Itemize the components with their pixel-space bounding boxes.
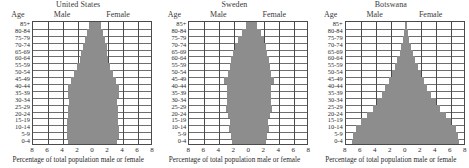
x-tick-label: 2 — [232, 146, 236, 155]
bar-female — [249, 50, 267, 57]
pyramid-panel-sweden: SwedenAgeMaleFemale85+80-8475-7970-7465-… — [156, 0, 312, 168]
bar-female — [93, 132, 119, 139]
heading-female: Female — [401, 9, 461, 20]
bar-female — [249, 36, 263, 43]
bar-female — [249, 112, 269, 119]
bar-female — [249, 56, 269, 63]
bar-female — [406, 132, 459, 139]
bar-female — [249, 77, 274, 84]
column-headings: AgeMaleFemale — [0, 9, 156, 20]
bar-male — [230, 118, 250, 125]
bar-male — [397, 56, 405, 63]
bar-female — [406, 112, 447, 119]
bar-female — [93, 29, 103, 36]
bar-female — [93, 91, 119, 98]
bar-female — [93, 77, 116, 84]
pyramid-plot — [188, 21, 308, 145]
bar-female — [249, 132, 266, 139]
panel-title: Sweden — [156, 0, 312, 9]
bar-female — [406, 105, 441, 112]
bar-male — [392, 70, 406, 77]
gridline-vertical — [123, 22, 124, 144]
bar-male — [68, 112, 94, 119]
bar-female — [93, 105, 118, 112]
bar-male — [238, 36, 249, 43]
panel-title: Botswana — [313, 0, 469, 9]
bar-female — [249, 22, 257, 29]
bar-male — [81, 50, 93, 57]
bar-female — [93, 125, 119, 132]
gridline-vertical — [48, 22, 49, 144]
heading-male: Male — [347, 9, 403, 20]
bar-female — [249, 70, 271, 77]
bar-male — [68, 91, 93, 98]
gridline-vertical — [63, 22, 64, 144]
gridline-vertical — [138, 22, 139, 144]
heading-male: Male — [34, 9, 90, 20]
bar-female — [249, 63, 269, 70]
bar-male — [67, 118, 93, 125]
bar-female — [406, 98, 436, 105]
x-tick-label: 2 — [262, 146, 266, 155]
bar-female — [249, 98, 271, 105]
bar-male — [67, 132, 93, 139]
bar-female — [93, 63, 110, 70]
bar-female — [93, 118, 118, 125]
age-axis-labels: 85+80-8475-7970-7465-6960-6455-5950-5445… — [156, 21, 187, 145]
bar-male — [361, 118, 406, 125]
x-axis-caption: Percentage of total population male or f… — [313, 155, 469, 165]
x-tick-label: 8 — [343, 146, 347, 155]
bar-male — [227, 91, 250, 98]
plot-area: 85+80-8475-7970-7465-6960-6455-5950-5445… — [156, 21, 312, 168]
bar-female — [406, 22, 408, 29]
bar-female — [249, 125, 269, 132]
bar-male — [233, 50, 250, 57]
heading-age: Age — [318, 9, 344, 20]
x-tick-label: 2 — [388, 146, 392, 155]
bar-male — [68, 84, 93, 91]
heading-age: Age — [161, 9, 187, 20]
panel-title: United States — [0, 0, 156, 9]
bar-male — [385, 84, 405, 91]
bar-female — [93, 84, 119, 91]
bar-female — [406, 56, 416, 63]
age-axis-labels: 85+80-8475-7970-7465-6960-6455-5950-5445… — [0, 21, 31, 145]
x-axis-caption: Percentage of total population male or f… — [0, 155, 156, 165]
bar-female — [93, 98, 117, 105]
x-tick-label: 6 — [448, 146, 452, 155]
x-tick-label: 4 — [373, 146, 377, 155]
bar-female — [249, 105, 272, 112]
bar-female — [249, 91, 271, 98]
x-tick-label: 6 — [45, 146, 49, 155]
heading-female: Female — [244, 9, 304, 20]
bar-male — [231, 132, 249, 139]
x-tick-label: 8 — [307, 146, 311, 155]
bar-male — [242, 29, 250, 36]
x-axis-caption: Percentage of total population male or f… — [156, 155, 312, 165]
column-headings: AgeMaleFemale — [156, 9, 312, 20]
x-tick-label: 8 — [463, 146, 467, 155]
bar-female — [249, 43, 266, 50]
pyramid-plot — [345, 21, 465, 145]
x-tick-label: 6 — [292, 146, 296, 155]
heading-female: Female — [88, 9, 148, 20]
age-label: 0-4 — [178, 138, 187, 145]
x-tick-label: 0 — [247, 146, 251, 155]
bar-male — [228, 70, 249, 77]
plot-area: 85+80-8475-7970-7465-6960-6455-5950-5445… — [313, 21, 469, 168]
x-tick-label: 4 — [433, 146, 437, 155]
bar-female — [406, 50, 413, 57]
bar-female — [406, 84, 428, 91]
bar-male — [83, 43, 94, 50]
x-tick-label: 4 — [120, 146, 124, 155]
bar-female — [406, 36, 410, 43]
bar-female — [249, 84, 271, 91]
x-tick-label: 2 — [105, 146, 109, 155]
bar-male — [231, 56, 250, 63]
bar-female — [406, 43, 411, 50]
x-tick-label: 4 — [277, 146, 281, 155]
x-tick-label: 2 — [418, 146, 422, 155]
bar-male — [85, 36, 93, 43]
bar-male — [367, 112, 406, 119]
bar-female — [93, 50, 107, 57]
